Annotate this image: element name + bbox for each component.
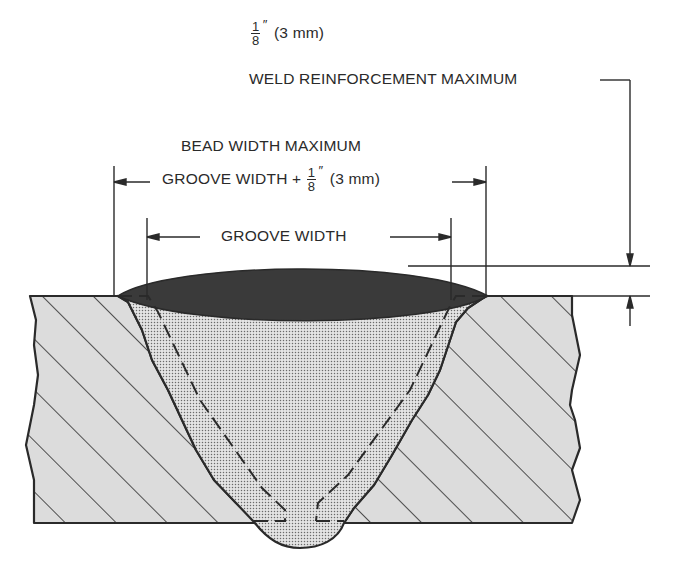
groove-width-plus-label: GROOVE WIDTH + 1 8 ″ (3 mm): [162, 166, 380, 193]
fraction-one-eighth: 1 8 ″: [307, 166, 316, 193]
groove-width-label: GROOVE WIDTH: [221, 227, 347, 245]
bead-width-max-label: BEAD WIDTH MAXIMUM: [181, 137, 361, 155]
fraction-one-eighth: 1 8 ″: [251, 20, 260, 47]
weld-reinforcement-max-label: WELD REINFORCEMENT MAXIMUM: [249, 70, 517, 88]
metric-value: (3 mm): [330, 170, 380, 187]
groove-width-plus-prefix: GROOVE WIDTH +: [162, 170, 301, 187]
metric-value: (3 mm): [274, 24, 324, 41]
reinforcement-fraction-label: 1 8 ″ (3 mm): [250, 20, 324, 47]
